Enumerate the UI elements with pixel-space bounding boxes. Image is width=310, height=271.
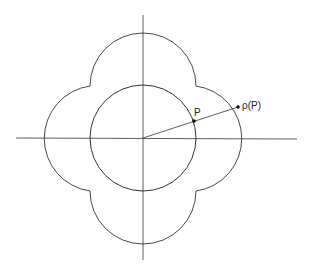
radial-segment <box>143 107 238 138</box>
label-p: P <box>194 107 201 118</box>
diagram-canvas: P ρ(P) <box>0 0 310 271</box>
label-rho-p: ρ(P) <box>242 100 261 111</box>
x-axis <box>16 138 297 139</box>
point-p <box>192 119 196 123</box>
point-rho-p <box>236 105 240 109</box>
